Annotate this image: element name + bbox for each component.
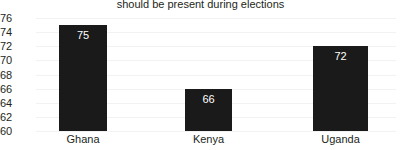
x-tick-label: Uganda <box>313 133 368 145</box>
x-tick-label: Kenya <box>185 133 232 145</box>
y-tick-label: 72 <box>0 41 32 52</box>
plot-area: 756672 <box>36 18 396 131</box>
y-tick-label: 68 <box>0 70 32 81</box>
x-axis: GhanaKenyaUganda <box>36 133 396 149</box>
y-tick-label: 64 <box>0 98 32 109</box>
y-axis: 767472706866646260 <box>0 18 32 131</box>
bar-value-label: 66 <box>185 94 232 105</box>
chart-title: should be present during elections <box>0 0 401 11</box>
y-tick-label: 76 <box>0 13 32 24</box>
y-tick-label: 60 <box>0 126 32 137</box>
bar: 75 <box>59 25 107 131</box>
bar-chart: should be present during elections 76747… <box>0 0 401 150</box>
y-tick-label: 70 <box>0 55 32 66</box>
y-tick-label: 66 <box>0 84 32 95</box>
bar-value-label: 75 <box>59 30 107 41</box>
bar-value-label: 72 <box>313 51 368 62</box>
y-tick-label: 74 <box>0 27 32 38</box>
y-tick-label: 62 <box>0 112 32 123</box>
gridline <box>36 131 396 132</box>
bar: 72 <box>313 46 368 131</box>
gridline <box>36 18 396 19</box>
bar: 66 <box>185 89 232 131</box>
x-tick-label: Ghana <box>59 133 107 145</box>
